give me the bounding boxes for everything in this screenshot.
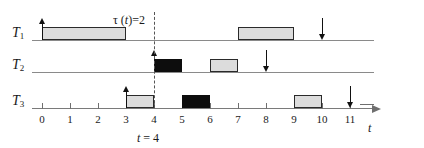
marker-time-label: t = 4 <box>137 132 159 144</box>
row-label-subscript: 2 <box>20 63 25 73</box>
axis-tick-label-9: 9 <box>283 114 305 125</box>
axis-tick-label-1: 1 <box>59 114 81 125</box>
release-arrow-t3-t3 <box>123 86 130 108</box>
axis-name-t: t <box>368 122 371 134</box>
axis-tick-6 <box>210 103 211 109</box>
axis-tick-8 <box>266 103 267 109</box>
row-label-subscript: 1 <box>20 31 25 41</box>
tau-argument: t <box>125 13 128 27</box>
tau-annotation: τ (t)=2 <box>113 14 145 26</box>
execution-block-t3-9-10 <box>294 95 322 108</box>
deadline-arrow-t2-t8 <box>263 50 270 72</box>
axis-tick-label-8: 8 <box>255 114 277 125</box>
axis-tick-label-4: 4 <box>143 114 165 125</box>
row-label-t3: T3 <box>12 94 24 109</box>
axis-tick-label-3: 3 <box>115 114 137 125</box>
deadline-arrow-t1-t10 <box>319 18 326 40</box>
deadline-arrow-t3-t11 <box>347 86 354 108</box>
row-label-t2: T2 <box>12 58 24 73</box>
axis-tick-label-10: 10 <box>311 114 333 125</box>
axis-tick-2 <box>98 103 99 109</box>
axis-tick-label-11: 11 <box>339 114 361 125</box>
execution-block-t1-0-3 <box>42 27 126 40</box>
execution-block-t3-5-6 <box>182 95 210 108</box>
axis-tick-10 <box>322 103 323 109</box>
row-label-subscript: 3 <box>20 99 25 109</box>
baseline-t2 <box>32 72 374 73</box>
marker-variable: t <box>137 131 140 145</box>
execution-block-t2-4-5 <box>154 59 182 72</box>
arrow-shaft <box>322 18 323 36</box>
arrow-shaft <box>266 50 267 68</box>
axis-tick-label-0: 0 <box>31 114 53 125</box>
execution-block-t2-6-7 <box>210 59 238 72</box>
release-arrow-t1-t0 <box>39 18 46 40</box>
execution-block-t3-3-4 <box>126 95 154 108</box>
arrow-shaft <box>42 22 43 40</box>
axis-tick-7 <box>238 103 239 109</box>
time-axis-arrowhead <box>372 105 381 113</box>
baseline-t1 <box>32 40 374 41</box>
row-label-t1: T1 <box>12 26 24 41</box>
arrow-shaft <box>350 86 351 104</box>
execution-block-t1-7-9 <box>238 27 294 40</box>
axis-tick-label-6: 6 <box>199 114 221 125</box>
arrow-shaft <box>126 90 127 108</box>
axis-tick-label-5: 5 <box>171 114 193 125</box>
axis-tick-1 <box>70 103 71 109</box>
axis-tick-label-7: 7 <box>227 114 249 125</box>
timing-diagram-figure: T1 T2 T3 01234567891011 τ (t)=2 t = 4 t <box>0 0 424 148</box>
axis-tick-label-2: 2 <box>87 114 109 125</box>
axis-tick-0 <box>42 103 43 109</box>
marker-dashed-line <box>154 12 155 108</box>
